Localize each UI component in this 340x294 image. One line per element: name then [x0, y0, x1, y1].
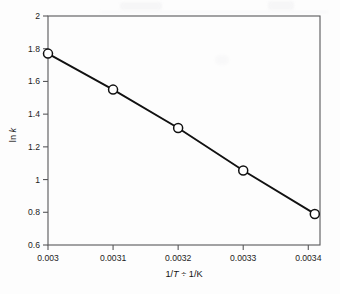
- chart-canvas: 0.60.811.21.41.61.82 0.0030.00310.00320.…: [0, 0, 340, 294]
- y-tick-label: 1.6: [28, 76, 40, 86]
- plot-frame: [48, 16, 320, 245]
- x-tick-label: 0.0033: [230, 253, 257, 263]
- data-point-marker: [174, 124, 183, 133]
- x-axis-title: 1/T ÷ 1/K: [165, 269, 203, 279]
- series-line-ln-k: [48, 54, 315, 214]
- data-point-marker: [310, 209, 319, 218]
- y-tick-label: 1.2: [28, 142, 40, 152]
- data-point-marker: [239, 166, 248, 175]
- x-tick-label: 0.003: [37, 253, 59, 263]
- data-point-marker: [44, 49, 53, 58]
- y-tick-label: 1.4: [28, 109, 40, 119]
- y-tick-label: 0.8: [28, 207, 40, 217]
- x-tick-label: 0.0034: [295, 253, 322, 263]
- y-tick-label: 1.8: [28, 44, 40, 54]
- x-tick-label: 0.0031: [100, 253, 127, 263]
- y-tick-label: 2: [35, 11, 40, 21]
- y-axis-title: ln k: [8, 127, 18, 142]
- arrhenius-plot-figure: 0.60.811.21.41.61.82 0.0030.00310.00320.…: [0, 0, 340, 294]
- y-axis-ticks: 0.60.811.21.41.61.82: [28, 11, 48, 250]
- y-tick-label: 1: [35, 175, 40, 185]
- x-tick-label: 0.0032: [165, 253, 192, 263]
- y-tick-label: 0.6: [28, 240, 40, 250]
- x-axis-ticks: 0.0030.00310.00320.00330.0034: [37, 245, 321, 263]
- data-point-marker: [109, 85, 118, 94]
